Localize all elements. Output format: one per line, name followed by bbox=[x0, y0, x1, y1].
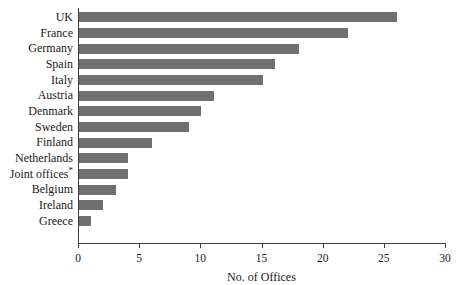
bar-row bbox=[78, 120, 445, 136]
category-label: Ireland bbox=[0, 198, 73, 214]
category-label: Spain bbox=[0, 57, 73, 73]
bar bbox=[79, 59, 275, 69]
x-tick-label: 15 bbox=[242, 251, 282, 265]
category-label: Netherlands bbox=[0, 151, 73, 167]
x-tick-mark bbox=[262, 243, 263, 248]
category-label: Greece bbox=[0, 214, 73, 230]
bar bbox=[79, 122, 189, 132]
bar-row bbox=[78, 104, 445, 120]
category-label: Italy bbox=[0, 73, 73, 89]
category-label: Sweden bbox=[0, 120, 73, 136]
bar-row bbox=[78, 88, 445, 104]
category-label: UK bbox=[0, 10, 73, 26]
x-tick-label: 10 bbox=[180, 251, 220, 265]
bar-row bbox=[78, 182, 445, 198]
bar-chart: 051015202530 UKFranceGermanySpainItalyAu… bbox=[0, 0, 461, 285]
bar-row bbox=[78, 10, 445, 26]
bar-row bbox=[78, 214, 445, 230]
bar bbox=[79, 138, 152, 148]
plot-area: 051015202530 UKFranceGermanySpainItalyAu… bbox=[78, 8, 445, 243]
category-label: Belgium bbox=[0, 182, 73, 198]
x-tick-label: 30 bbox=[425, 251, 461, 265]
category-labels: UKFranceGermanySpainItalyAustriaDenmarkS… bbox=[0, 8, 73, 243]
bar-row bbox=[78, 167, 445, 183]
category-label: Austria bbox=[0, 88, 73, 104]
bar bbox=[79, 169, 128, 179]
bar-row bbox=[78, 26, 445, 42]
bar-row bbox=[78, 198, 445, 214]
x-tick-mark bbox=[384, 243, 385, 248]
bar-row bbox=[78, 57, 445, 73]
bar bbox=[79, 200, 103, 210]
category-label: Joint offices* bbox=[0, 167, 73, 183]
bar bbox=[79, 44, 299, 54]
bar bbox=[79, 216, 91, 226]
category-label: France bbox=[0, 26, 73, 42]
bar bbox=[79, 75, 263, 85]
x-tick-label: 25 bbox=[364, 251, 404, 265]
bar bbox=[79, 28, 348, 38]
x-tick-mark bbox=[200, 243, 201, 248]
bar-series bbox=[78, 8, 445, 243]
x-tick-mark bbox=[445, 243, 446, 248]
x-tick-label: 0 bbox=[58, 251, 98, 265]
bar bbox=[79, 91, 214, 101]
x-tick-label: 5 bbox=[119, 251, 159, 265]
x-tick-mark bbox=[139, 243, 140, 248]
category-label: Finland bbox=[0, 135, 73, 151]
x-tick-label: 20 bbox=[303, 251, 343, 265]
x-tick-mark bbox=[78, 243, 79, 248]
category-label: Germany bbox=[0, 41, 73, 57]
bar-row bbox=[78, 41, 445, 57]
bar bbox=[79, 12, 397, 22]
bar-row bbox=[78, 151, 445, 167]
bar bbox=[79, 106, 201, 116]
x-axis-title: No. of Offices bbox=[78, 270, 445, 285]
bar-row bbox=[78, 135, 445, 151]
bar-row bbox=[78, 73, 445, 89]
bar bbox=[79, 185, 116, 195]
x-tick-mark bbox=[323, 243, 324, 248]
bar bbox=[79, 153, 128, 163]
category-label: Denmark bbox=[0, 104, 73, 120]
